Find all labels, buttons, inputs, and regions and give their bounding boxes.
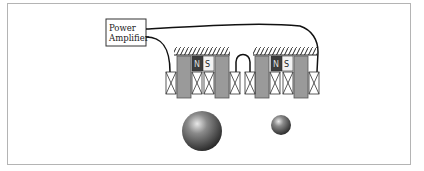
south-label: S <box>205 60 210 69</box>
coil <box>309 72 319 94</box>
pole-piece <box>177 56 191 98</box>
pole-piece <box>215 56 229 98</box>
south-label: S <box>284 60 289 69</box>
coil <box>166 72 176 94</box>
amplifier-label-line1: Power <box>109 23 137 33</box>
coil <box>204 72 214 94</box>
coil <box>192 72 202 94</box>
coil <box>230 72 240 94</box>
north-label: N <box>273 60 279 69</box>
large-steel-ball <box>182 111 222 151</box>
levitation-diagram: Power Amplifier N S N S <box>0 0 424 171</box>
pole-piece <box>294 56 308 98</box>
left-wire <box>146 37 170 72</box>
right-electromagnet: N S <box>255 56 308 98</box>
left-electromagnet: N S <box>177 56 229 98</box>
coil <box>270 72 280 94</box>
power-amplifier: Power Amplifier <box>106 19 150 46</box>
amplifier-label-line2: Amplifier <box>108 33 150 43</box>
ceiling-mounts <box>174 47 317 55</box>
pole-piece <box>255 56 269 98</box>
small-steel-ball <box>271 115 291 135</box>
north-label: N <box>194 60 200 69</box>
coil <box>245 72 255 94</box>
coil <box>283 72 293 94</box>
